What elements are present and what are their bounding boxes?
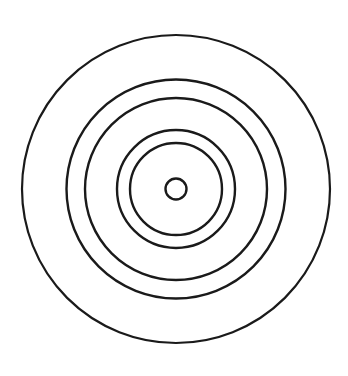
background (0, 0, 348, 376)
concentric-circles-diagram (0, 0, 348, 376)
